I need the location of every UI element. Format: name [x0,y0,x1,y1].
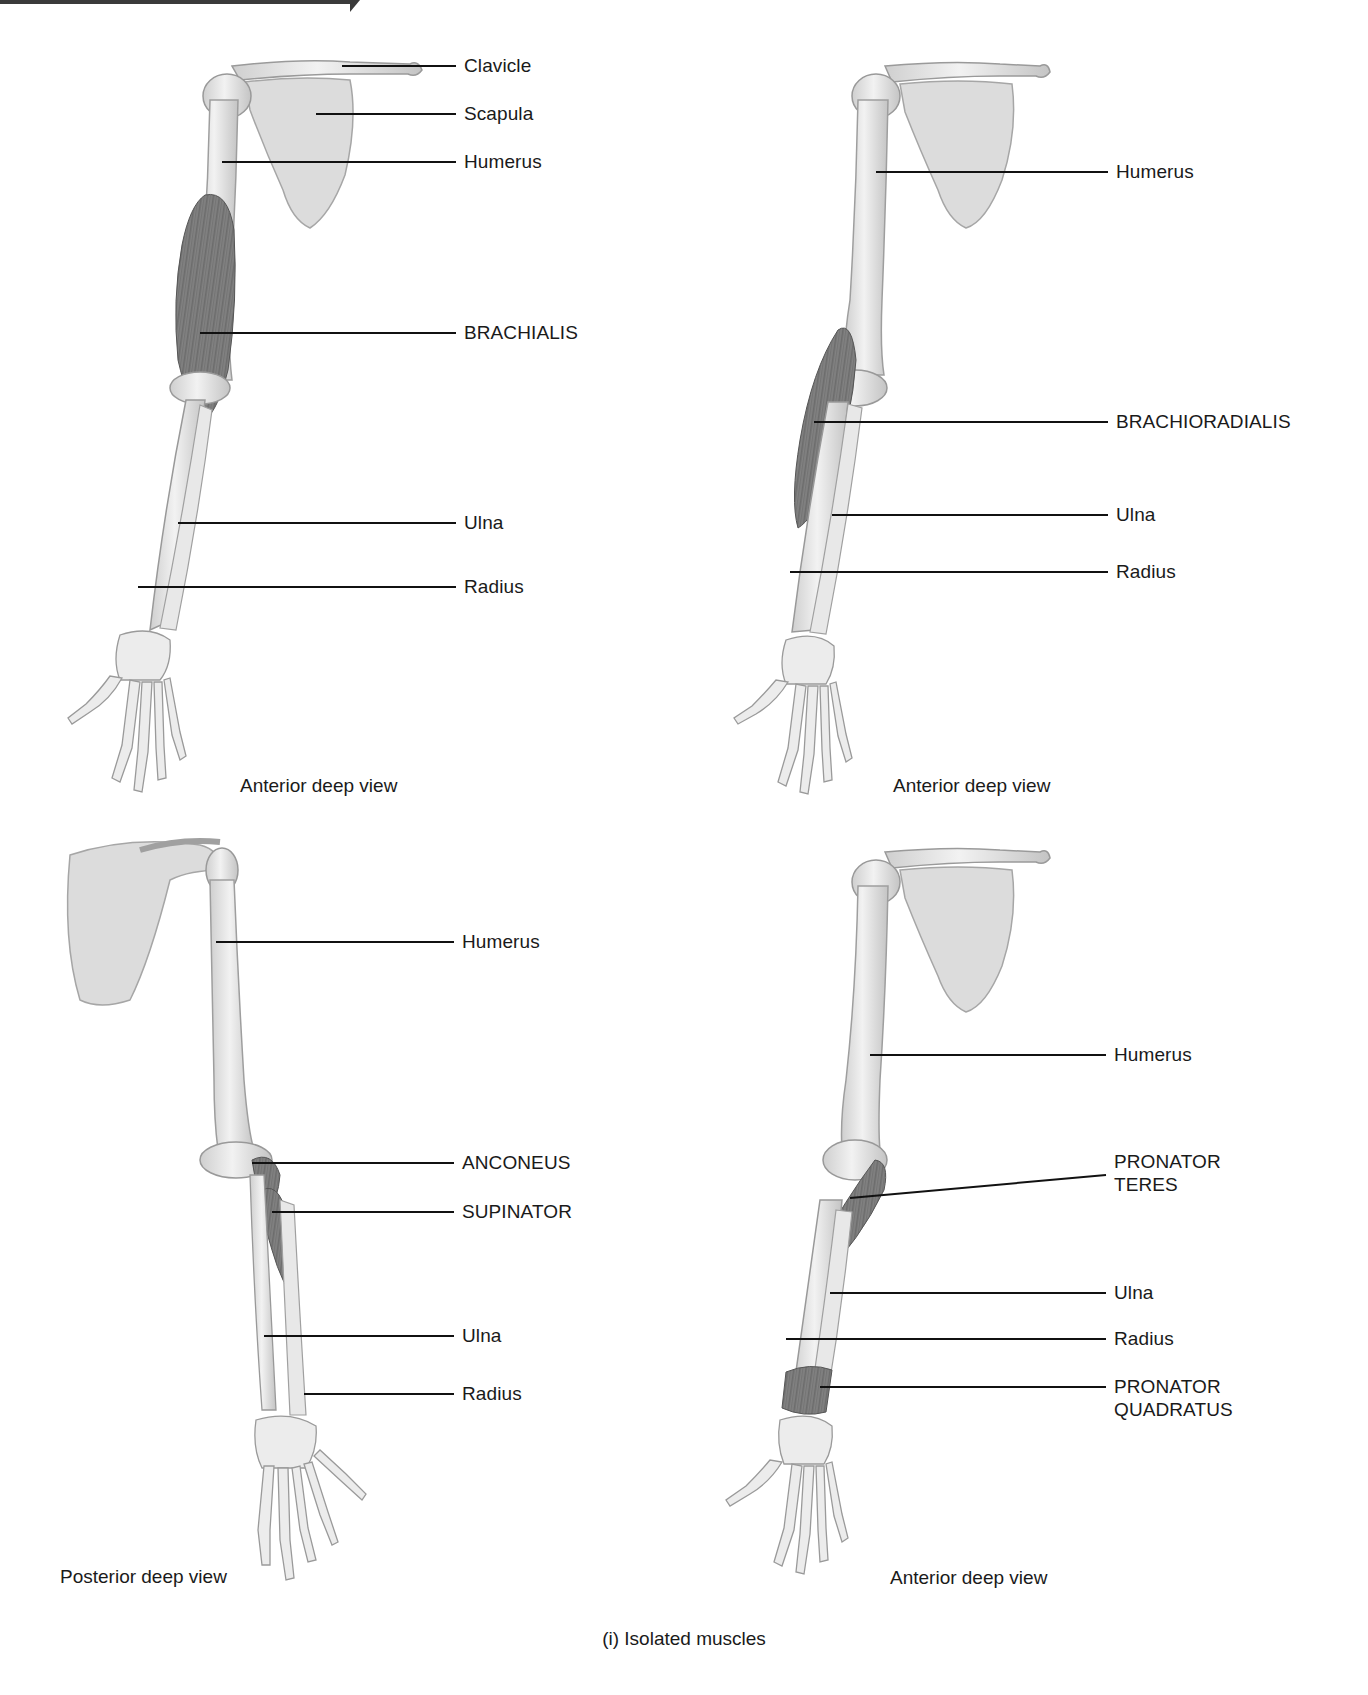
panel-bottom-left-illustration [68,841,366,1580]
label-humerus: Humerus [462,930,540,953]
label-pronator-quadratus-line1: PRONATOR [1114,1375,1233,1398]
label-pronator-teres-line1: PRONATOR [1114,1150,1221,1173]
label-scapula: Scapula [464,102,533,125]
label-pronator-quadratus-line2: QUADRATUS [1114,1398,1233,1421]
label-clavicle: Clavicle [464,54,531,77]
label-anconeus: ANCONEUS [462,1151,570,1174]
view-caption-top-left: Anterior deep view [240,775,397,797]
panel-top-left-illustration [68,61,422,792]
label-ulna: Ulna [462,1324,501,1347]
label-brachialis: BRACHIALIS [464,321,578,344]
label-pronator-teres: PRONATOR TERES [1114,1150,1221,1196]
label-humerus: Humerus [464,150,542,173]
figure-caption: (i) Isolated muscles [0,1628,1368,1650]
label-supinator: SUPINATOR [462,1200,572,1223]
label-radius: Radius [1114,1327,1174,1350]
view-caption-bottom-right: Anterior deep view [890,1567,1047,1589]
label-radius: Radius [1116,560,1176,583]
leader-lines [138,66,1108,1394]
label-radius: Radius [462,1382,522,1405]
view-caption-top-right: Anterior deep view [893,775,1050,797]
label-brachioradialis: BRACHIORADIALIS [1116,410,1291,433]
anatomy-illustration [0,0,1368,1695]
label-humerus: Humerus [1116,160,1194,183]
panel-bottom-right-illustration [726,848,1050,1574]
view-caption-bottom-left: Posterior deep view [60,1566,227,1588]
label-radius: Radius [464,575,524,598]
label-pronator-teres-line2: TERES [1114,1173,1221,1196]
label-ulna: Ulna [1114,1281,1153,1304]
label-ulna: Ulna [1116,503,1155,526]
label-pronator-quadratus: PRONATOR QUADRATUS [1114,1375,1233,1421]
label-ulna: Ulna [464,511,503,534]
label-humerus: Humerus [1114,1043,1192,1066]
